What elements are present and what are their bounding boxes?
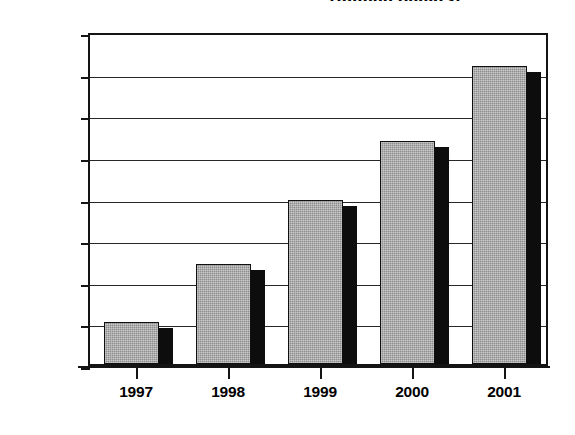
y-axis-tick (81, 285, 90, 287)
y-axis-tick (81, 326, 90, 328)
bar-face (104, 322, 159, 364)
x-axis-label: 1999 (275, 383, 365, 401)
bar-face (196, 264, 251, 364)
bar (196, 264, 265, 364)
x-axis-label: 1997 (91, 383, 181, 401)
x-axis-tick (412, 366, 414, 379)
bar-face (288, 200, 343, 364)
bar-face (472, 66, 527, 364)
y-axis-tick (81, 160, 90, 162)
x-axis-tick (320, 366, 322, 379)
plot-area (88, 33, 548, 366)
x-axis-line (78, 366, 550, 368)
y-axis-tick (81, 35, 90, 37)
chart-title: (million dollars) (250, 0, 540, 1)
y-axis-tick (81, 77, 90, 79)
bar (288, 200, 357, 364)
x-axis-tick (228, 366, 230, 379)
bar-face (380, 141, 435, 364)
y-axis-tick (81, 243, 90, 245)
x-axis-tick (136, 366, 138, 379)
bar (472, 66, 541, 364)
bar-chart-figure: (million dollars) 13,00012,00011,00010,0… (0, 0, 575, 435)
x-axis-tick (504, 366, 506, 379)
bar (104, 322, 173, 364)
y-axis-tick (81, 118, 90, 120)
x-axis-label: 2001 (459, 383, 549, 401)
y-axis-tick (81, 202, 90, 204)
x-axis-label: 2000 (367, 383, 457, 401)
bar (380, 141, 449, 364)
y-axis-tick (81, 368, 90, 370)
x-axis-label: 1998 (183, 383, 273, 401)
